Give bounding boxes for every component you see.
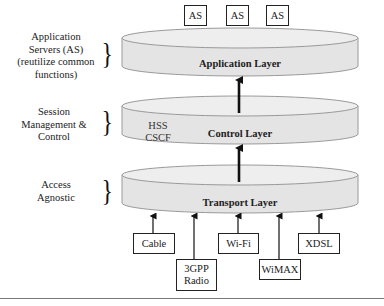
- application-server-box-1: AS: [184, 5, 207, 26]
- access-box-cable: Cable: [133, 233, 175, 254]
- label-line: Access: [26, 179, 86, 192]
- brace-session: }: [101, 106, 113, 136]
- label-line: Control: [14, 131, 94, 144]
- label-line: Application: [10, 31, 102, 44]
- label-line: Session: [14, 106, 94, 119]
- label-session-management: Session Management & Control: [14, 106, 94, 144]
- label-line: (reutilize common: [10, 56, 102, 69]
- label-access-agnostic: Access Agnostic: [26, 179, 86, 204]
- label-line: Agnostic: [26, 192, 86, 205]
- application-layer-title: Application Layer: [180, 58, 300, 69]
- access-box-wimax: WiMAX: [259, 259, 301, 280]
- label-line: Servers (AS): [10, 44, 102, 57]
- brace-access: }: [101, 175, 113, 205]
- application-server-box-3: AS: [266, 5, 289, 26]
- label-line: 3GPP: [184, 263, 209, 275]
- label-line: functions): [10, 69, 102, 82]
- application-server-box-2: AS: [226, 5, 249, 26]
- label-line: Management &: [14, 119, 94, 132]
- transport-layer-title: Transport Layer: [180, 197, 300, 208]
- access-box-xdsl: XDSL: [298, 233, 340, 254]
- access-box-wifi: Wi-Fi: [218, 233, 259, 254]
- access-box-3gpp-radio: 3GPP Radio: [176, 259, 217, 291]
- control-layer-title: Control Layer: [180, 128, 300, 139]
- node-cscf: CSCF: [138, 132, 178, 144]
- control-layer-nodes: HSS CSCF: [138, 120, 178, 144]
- brace-application: }: [101, 38, 113, 68]
- label-line: Radio: [184, 275, 209, 287]
- bottom-divider: [0, 298, 384, 299]
- label-application-servers: Application Servers (AS) (reutilize comm…: [10, 31, 102, 81]
- node-hss: HSS: [138, 120, 178, 132]
